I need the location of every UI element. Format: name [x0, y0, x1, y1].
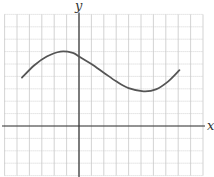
y-axis-label: y	[74, 0, 83, 13]
function-curve	[22, 51, 179, 91]
x-axis-label: x	[207, 118, 214, 133]
function-graph: x y	[0, 0, 214, 177]
graph-canvas: x y	[0, 0, 214, 177]
grid-lines	[5, 14, 203, 175]
